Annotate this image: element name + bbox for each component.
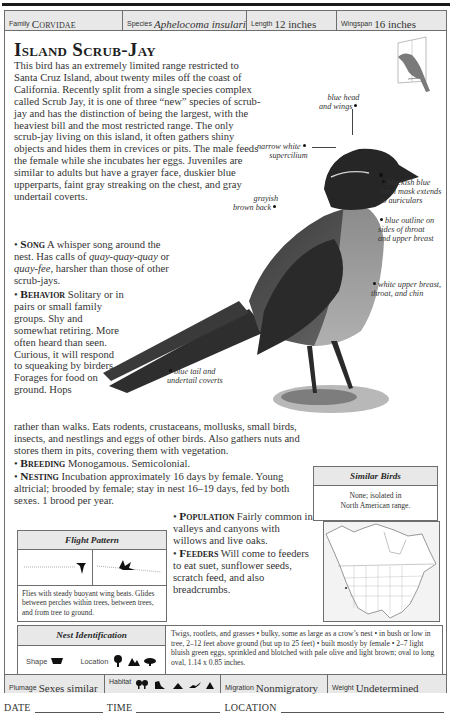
nest-identification-title: Nest Identification (18, 626, 165, 646)
population-section: • Population Fairly common in valleys an… (173, 511, 313, 547)
breeding-keyword: Breeding (20, 457, 65, 469)
family-label: Family (9, 20, 30, 27)
weight-cell: WeightUndetermined (328, 675, 446, 693)
callout-text: white upper breast, (378, 280, 441, 289)
callout-loral-mask: blackish blue loral mask extends to auri… (380, 178, 441, 206)
similar-birds-text: None; isolated in North American range. (314, 486, 437, 510)
bush-location-icon (143, 655, 157, 667)
species-title: Island Scrub-Jay (14, 39, 156, 61)
location-field[interactable] (281, 704, 444, 713)
feeders-keyword: Feeders (179, 547, 218, 559)
shrub-icon (155, 681, 165, 689)
weight-label: Weight (332, 684, 354, 691)
migration-value: Nonmigratory (256, 682, 318, 694)
date-field[interactable] (35, 704, 103, 713)
nest-shape-location-row: Shape Location (18, 646, 165, 668)
callout-white-breast: white upper breast, throat, and chin (371, 280, 441, 298)
flight-path-glide-icon (93, 550, 167, 586)
similar-birds-title: Similar Birds (314, 467, 437, 486)
callout-text: brown back (233, 203, 271, 212)
habitat-cell: Habitat (105, 675, 221, 693)
length-cell: Length12 inches (247, 11, 337, 30)
north-america-map-icon (324, 522, 439, 621)
family-cell: FamilyCorvidae (5, 11, 123, 30)
feeders-section: • Feeders Will come to feeders to eat su… (173, 548, 313, 596)
breeding-text: Monogamous. Semicolonial. (68, 458, 190, 469)
weight-value: Undetermined (356, 682, 419, 694)
similar-birds-line: North American range. (314, 501, 437, 511)
location-label: LOCATION (224, 702, 276, 713)
shrub-location-icon (127, 655, 141, 667)
callout-text: blue tail and (174, 367, 215, 376)
nest-description: Twigs, rootlets, and grasses • bulky, so… (166, 626, 442, 676)
callout-text: supercilium (257, 151, 308, 160)
nesting-keyword: Nesting (20, 470, 58, 482)
habitat-label: Habitat (109, 678, 131, 685)
migration-cell: MigrationNonmigratory (221, 675, 328, 693)
top-rule (2, 3, 450, 6)
time-field[interactable] (136, 704, 220, 713)
callout-supercilium: narrow white supercilium (257, 142, 308, 160)
callout-text: and wings (319, 102, 352, 111)
callout-line (352, 109, 353, 135)
nesting-section: • Nesting Incubation approximately 16 da… (14, 471, 306, 507)
callout-text: to auriculars (380, 196, 441, 205)
habitat-icons (135, 678, 217, 690)
callout-text: undertail coverts (167, 376, 223, 385)
species-header: FamilyCorvidae SpeciesAphelocoma insular… (5, 11, 446, 31)
species-cell: SpeciesAphelocoma insularis (123, 11, 247, 30)
plumage-cell: PlumageSexes similar (5, 675, 105, 693)
callout-text: and upper breast (378, 234, 434, 243)
mountain-icon (206, 682, 214, 689)
callout-text: loral mask extends (380, 187, 441, 196)
silhouette-thumbnail (390, 35, 442, 95)
callout-blue-outline: blue outline on sides of throat and uppe… (378, 216, 434, 244)
flight-diagram-glide (93, 550, 167, 585)
time-label: TIME (107, 702, 133, 713)
plumage-value: Sexes similar (39, 682, 98, 694)
population-keyword: Population (179, 510, 234, 522)
song-call-2: quay-fee (14, 263, 50, 274)
flight-diagram-flap (18, 550, 93, 585)
callout-text: blue head (319, 93, 359, 102)
cup-nest-icon (50, 656, 64, 666)
callout-blue-head: blue head and wings (319, 93, 359, 111)
nest-location-label: Location (80, 657, 108, 666)
similar-birds-line: None; isolated in (314, 491, 437, 501)
species-value: Aphelocoma insularis (154, 18, 247, 30)
callout-text: sides of throat (378, 225, 434, 234)
breeding-section: • Breeding Monogamous. Semicolonial. (14, 458, 304, 470)
wingspan-cell: Wingspan16 inches (337, 11, 446, 30)
nest-identification-box: Nest Identification Shape Location Twigs… (17, 625, 443, 677)
flight-pattern-description: Flies with steady buoyant wing beats. Gl… (18, 586, 166, 617)
forest-icon (136, 680, 148, 689)
callout-text: blue outline on (385, 216, 434, 225)
behavior-continued: rather than walks. Eats rodents, crustac… (14, 421, 304, 457)
species-label: Species (127, 20, 152, 27)
length-label: Length (251, 20, 272, 27)
callout-text: blackish blue (387, 178, 430, 187)
date-label: DATE (4, 702, 31, 713)
field-guide-page: FamilyCorvidae SpeciesAphelocoma insular… (4, 10, 447, 693)
behavior-keyword: Behavior (20, 288, 65, 300)
length-value: 12 inches (274, 18, 316, 30)
callout-text: throat, and chin (371, 289, 441, 298)
hill-icon (173, 683, 183, 689)
callout-line (312, 147, 336, 148)
callout-text: narrow white (257, 142, 301, 151)
callout-tail: blue tail and undertail coverts (167, 367, 223, 385)
species-footer: PlumageSexes similar Habitat MigrationNo… (5, 674, 446, 693)
sighting-log: DATE TIME LOCATION (4, 702, 448, 713)
range-map (323, 521, 440, 622)
plumage-label: Plumage (9, 684, 37, 691)
flight-pattern-diagrams (18, 550, 166, 586)
flight-pattern-title: Flight Pattern (18, 531, 166, 550)
flight-path-flap-icon (18, 550, 92, 586)
migration-label: Migration (225, 684, 254, 691)
callout-text: grayish (233, 194, 278, 203)
wingspan-label: Wingspan (341, 20, 372, 27)
bird-silhouette-icon (390, 35, 442, 95)
behavior-text-2: rather than walks. Eats rodents, crustac… (14, 421, 304, 457)
flight-pattern-box: Flight Pattern Flies with steady buoyant… (17, 530, 167, 622)
wetland-icon (189, 682, 201, 688)
